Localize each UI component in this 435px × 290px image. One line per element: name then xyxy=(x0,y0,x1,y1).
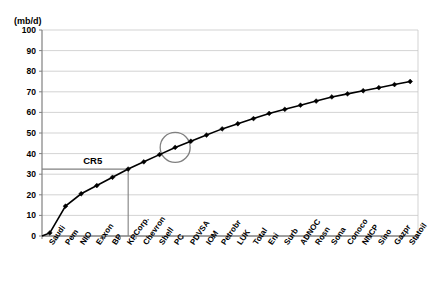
data-point-marker xyxy=(361,88,366,93)
data-point-marker xyxy=(392,82,397,87)
data-point-marker xyxy=(173,145,178,150)
cr5-label: CR5 xyxy=(83,155,102,166)
plot-area-svg xyxy=(0,0,435,290)
data-point-marker xyxy=(267,111,272,116)
data-point-marker xyxy=(376,85,381,90)
data-point-marker xyxy=(298,103,303,108)
chart-container: (mb/d) 0102030405060708090100 SaudiPemNI… xyxy=(0,0,435,290)
data-point-marker xyxy=(235,121,240,126)
data-point-marker xyxy=(251,116,256,121)
data-point-marker xyxy=(408,79,413,84)
data-point-marker xyxy=(220,126,225,131)
data-point-marker xyxy=(329,95,334,100)
data-point-marker xyxy=(141,159,146,164)
data-point-marker xyxy=(314,99,319,104)
data-point-marker xyxy=(282,107,287,112)
data-point-markers xyxy=(47,79,412,235)
gridlines xyxy=(42,30,418,236)
annotations-layer xyxy=(42,132,190,236)
